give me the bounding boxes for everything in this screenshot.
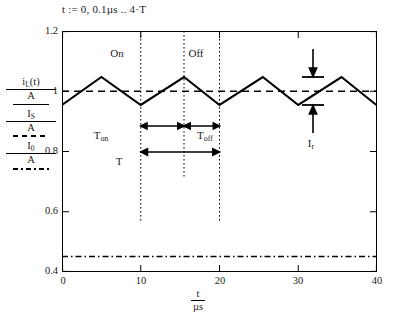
legend-is-num-sub: S (31, 112, 35, 121)
x-axis-label-denominator: µs (191, 300, 205, 313)
range-definition-text: t := 0, 0.1µs .. 4·T (62, 3, 146, 15)
ton-label-sub: on (100, 134, 108, 143)
figure-container: t := 0, 0.1µs .. 4·T (0, 0, 396, 321)
off-region-label-text: Off (188, 47, 203, 59)
x-tick-label-3: 20 (210, 275, 230, 286)
legend-il-denominator: A (6, 89, 56, 101)
ton-measure (141, 123, 184, 129)
y-tick-label-1: 1.2 (0, 25, 58, 36)
x-axis-label-numerator: t (191, 288, 205, 300)
x-tick-label-1: 0 (53, 275, 73, 286)
y-axis-legend: iL(t) A IS A I0 A (6, 76, 56, 173)
legend-il-fraction: iL(t) A (6, 76, 56, 102)
ripple-label: Ir (297, 137, 325, 151)
on-region-label: On (102, 47, 132, 59)
legend-i0-fraction: I0 A (6, 140, 56, 166)
legend-il-num-tail: (t) (30, 76, 40, 87)
legend-i0-numerator: I0 (6, 140, 56, 153)
legend-is-fraction: IS A (6, 108, 56, 134)
ripple-label-sub: r (312, 142, 315, 151)
x-tick-label-2: 10 (131, 275, 151, 286)
off-region-label: Off (180, 47, 212, 59)
legend-is-denominator: A (6, 121, 56, 133)
plot-canvas (62, 31, 377, 272)
x-tick-label-5: 40 (367, 275, 387, 286)
toff-label-sub: off (204, 134, 213, 143)
ton-label: Ton (84, 129, 118, 143)
toff-label: Toff (187, 129, 223, 143)
y-tick-label-5: 0.4 (0, 265, 58, 276)
x-axis-label: t µs (191, 288, 205, 312)
legend-i0-num-sub: 0 (31, 144, 35, 153)
legend-rule-solid (13, 104, 49, 105)
legend-rule-dashed (13, 135, 49, 137)
y-tick-label-4: 0.6 (0, 205, 58, 216)
legend-is-numerator: IS (6, 108, 56, 121)
period-label: T (104, 155, 134, 167)
legend-rule-dashdot (13, 168, 49, 170)
legend-il-numerator: iL(t) (6, 76, 56, 89)
x-tick-label-4: 30 (288, 275, 308, 286)
legend-i0-denominator: A (6, 153, 56, 165)
toff-label-main: T (197, 129, 204, 141)
period-measure (141, 149, 220, 156)
